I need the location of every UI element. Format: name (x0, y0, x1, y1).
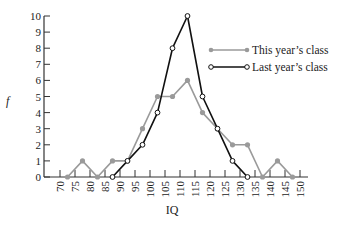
open-circle-marker-icon (170, 46, 175, 51)
filled-circle-marker-icon (260, 174, 265, 179)
legend-item-this-year: This year’s class (209, 44, 329, 57)
y-tick-label: 10 (30, 10, 42, 22)
filled-circle-marker-icon (290, 174, 295, 179)
legend: This year’s class Last year’s class (209, 44, 329, 74)
frequency-polygon-chart: 012345678910 707580859095100105110115120… (0, 0, 341, 227)
legend-item-last-year: Last year’s class (209, 61, 329, 74)
x-tick-label: 110 (174, 181, 186, 198)
filled-circle-marker-icon (95, 174, 100, 179)
y-tick-label: 5 (36, 91, 42, 103)
series-layer (65, 14, 295, 180)
open-circle-marker-icon (215, 126, 220, 131)
open-circle-marker-icon (209, 65, 214, 70)
y-tick-label: 4 (36, 107, 42, 119)
open-circle-marker-icon (110, 175, 115, 180)
x-axis: 7075808590951001051101151201251301351401… (44, 170, 308, 198)
open-circle-marker-icon (125, 159, 130, 164)
open-circle-marker-icon (245, 175, 250, 180)
y-axis: 012345678910 (30, 10, 50, 183)
x-tick-label: 80 (84, 181, 96, 193)
x-tick-label: 145 (279, 181, 291, 198)
open-circle-marker-icon (200, 94, 205, 99)
x-tick-label: 140 (264, 181, 276, 198)
x-tick-label: 135 (249, 181, 261, 198)
y-tick-label: 8 (36, 42, 42, 54)
y-tick-label: 6 (36, 74, 42, 86)
x-tick-label: 70 (54, 181, 66, 193)
x-tick-label: 90 (114, 181, 126, 193)
y-tick-label: 0 (36, 171, 42, 183)
open-circle-marker-icon (245, 65, 250, 70)
x-tick-label: 125 (219, 181, 231, 198)
y-tick-label: 2 (36, 139, 42, 151)
filled-circle-marker-icon (245, 142, 250, 147)
filled-circle-marker-icon (275, 158, 280, 163)
filled-circle-marker-icon (65, 174, 70, 179)
x-axis-title: IQ (166, 203, 179, 217)
legend-label-last-year: Last year’s class (252, 61, 328, 74)
open-circle-marker-icon (230, 159, 235, 164)
x-tick-label: 95 (129, 181, 141, 193)
open-circle-marker-icon (140, 142, 145, 147)
x-tick-label: 75 (69, 181, 81, 193)
filled-circle-marker-icon (200, 110, 205, 115)
x-tick-label: 115 (189, 181, 201, 198)
x-tick-label: 130 (234, 181, 246, 198)
filled-circle-marker-icon (245, 48, 250, 53)
x-tick-label: 100 (144, 181, 156, 198)
filled-circle-marker-icon (209, 48, 214, 53)
filled-circle-marker-icon (230, 142, 235, 147)
open-circle-marker-icon (185, 14, 190, 19)
filled-circle-marker-icon (110, 158, 115, 163)
y-axis-title: f (6, 94, 11, 108)
filled-circle-marker-icon (170, 94, 175, 99)
y-tick-label: 7 (36, 58, 42, 70)
x-tick-label: 85 (99, 181, 111, 193)
series-this-year (65, 78, 295, 180)
filled-circle-marker-icon (140, 126, 145, 131)
x-tick-label: 120 (204, 181, 216, 198)
y-tick-label: 1 (36, 155, 42, 167)
y-tick-label: 3 (36, 123, 42, 135)
open-circle-marker-icon (155, 110, 160, 115)
filled-circle-marker-icon (185, 78, 190, 83)
filled-circle-marker-icon (80, 158, 85, 163)
x-tick-label: 105 (159, 181, 171, 198)
x-tick-label: 150 (294, 181, 306, 198)
legend-label-this-year: This year’s class (252, 44, 329, 57)
y-tick-label: 9 (36, 26, 42, 38)
filled-circle-marker-icon (155, 94, 160, 99)
